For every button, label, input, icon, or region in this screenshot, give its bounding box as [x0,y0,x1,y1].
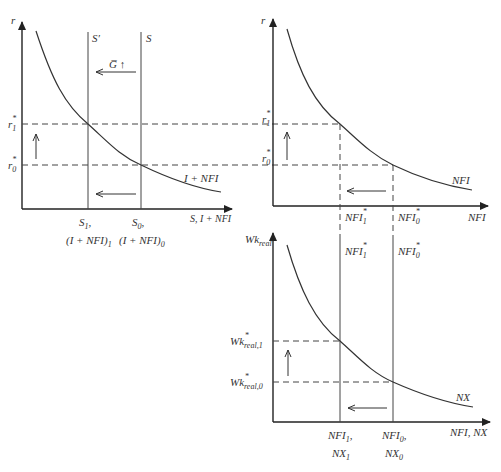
svg-text:Wkreal,1*: Wkreal,1* [230,331,263,350]
svg-text:NX1: NX1 [331,447,350,462]
top-tick-nfi0: NFI0* [397,241,420,260]
top-tick-nfi1: NFI1* [344,241,367,260]
svg-text:(I + NFI)0: (I + NFI)0 [119,234,165,249]
supply-old-label: S [146,32,152,44]
svg-text:S1,: S1, [79,216,92,231]
y-tick-r1: r1* [262,109,270,128]
investment-nfi-curve [36,31,221,192]
investment-nfi-label: I + NFI [183,172,220,184]
panel-savings-investment: r S, I + NFI S′ S I + NFI G̅ ↑ r1* r0* S… [8,14,232,249]
svg-text:NFI0*: NFI0* [397,241,420,260]
y-axis-label: r [11,14,16,26]
x-tick-nfi1: NFI1* [344,207,367,226]
y-tick-r0: r0* [8,155,16,174]
svg-text:NFI1,: NFI1, [327,429,353,444]
supply-new-label: S′ [92,32,101,44]
svg-text:NFI0,: NFI0, [381,429,407,444]
svg-text:NFI1*: NFI1* [344,207,367,226]
x-tick-nfi1-nx1: NFI1, NX1 [327,429,353,462]
x-axis-label: NFI [467,211,487,223]
economics-diagram: r S, I + NFI S′ S I + NFI G̅ ↑ r1* r0* S… [0,0,501,472]
svg-text:r1*: r1* [8,114,16,133]
y-axis-label: r [261,14,266,26]
x-axis-label: NFI, NX [449,426,489,438]
x-tick-s0: S0, (I + NFI)0 [119,216,165,249]
nfi-curve [287,29,472,190]
y-tick-r1: r1* [8,114,16,133]
x-axis-label: S, I + NFI [190,213,232,224]
svg-text:Wkreal,0*: Wkreal,0* [230,372,263,391]
panel-exchange-rate: Wkreal NFI, NX NX NFI1* NFI0* Wkreal,1* … [230,233,490,462]
nx-curve-label: NX [455,391,471,403]
y-tick-r0: r0* [262,148,270,167]
x-tick-nfi0: NFI0* [397,207,420,226]
svg-text:S0,: S0, [132,216,145,231]
y-axis-label: Wkreal [245,233,272,248]
svg-text:r1*: r1* [262,109,270,128]
y-tick-wk1: Wkreal,1* [230,331,263,350]
svg-text:NFI0*: NFI0* [397,207,420,226]
nx-curve [287,245,473,407]
x-tick-s1: S1, (I + NFI)1 [66,216,112,249]
policy-label: G̅ ↑ [109,58,125,70]
svg-text:r0*: r0* [8,155,16,174]
svg-text:NX0: NX0 [384,447,403,462]
y-tick-wk0: Wkreal,0* [230,372,263,391]
svg-text:NFI1*: NFI1* [344,241,367,260]
nfi-curve-label: NFI [451,174,471,186]
svg-text:(I + NFI)1: (I + NFI)1 [66,234,112,249]
svg-text:r0*: r0* [262,148,270,167]
x-tick-nfi0-nx0: NFI0, NX0 [381,429,407,462]
panel-nfi: r NFI NFI r1* r0* NFI1* NFI0* [261,14,488,226]
